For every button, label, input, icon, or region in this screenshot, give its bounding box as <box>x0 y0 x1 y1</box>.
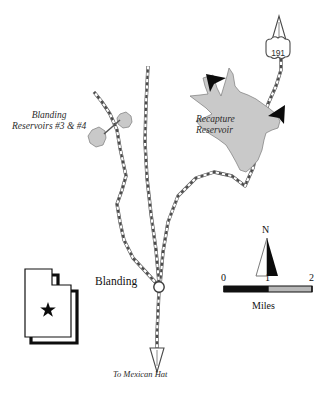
scale-unit-label: Miles <box>252 300 275 311</box>
label-blanding-reservoirs: Blanding Reservoirs #3 & #4 <box>12 110 86 131</box>
utah-state-inset <box>25 269 77 343</box>
label-blanding-reservoirs-line2: Reservoirs #3 & #4 <box>12 121 86 132</box>
label-to-mexican-hat: To Mexican Hat <box>113 370 167 380</box>
blanding-reservoir-4-polygon <box>88 127 106 147</box>
scale-tick-0: 0 <box>221 272 226 283</box>
road-center-north <box>145 66 159 283</box>
map-graphics: .casing{fill:none;stroke:#555;stroke-wid… <box>0 0 331 395</box>
label-recapture-reservoir-line1: Recapture <box>196 114 235 125</box>
north-arrow <box>256 238 278 276</box>
scale-tick-1: 1 <box>265 272 270 283</box>
label-blanding-reservoirs-line1: Blanding <box>12 110 86 121</box>
road-us191-north <box>160 40 281 285</box>
north-arrow-letter: N <box>262 224 269 235</box>
map-canvas: .casing{fill:none;stroke:#555;stroke-wid… <box>0 0 331 395</box>
label-city-blanding: Blanding <box>95 275 137 288</box>
scale-bar <box>224 286 312 292</box>
label-recapture-reservoir: Recapture Reservoir <box>196 114 235 135</box>
city-junction-marker <box>154 282 164 292</box>
label-recapture-reservoir-line2: Reservoir <box>196 125 235 136</box>
scale-tick-2: 2 <box>309 272 314 283</box>
road-us191-south <box>157 290 159 348</box>
highway-shield-number: 191 <box>264 48 292 58</box>
